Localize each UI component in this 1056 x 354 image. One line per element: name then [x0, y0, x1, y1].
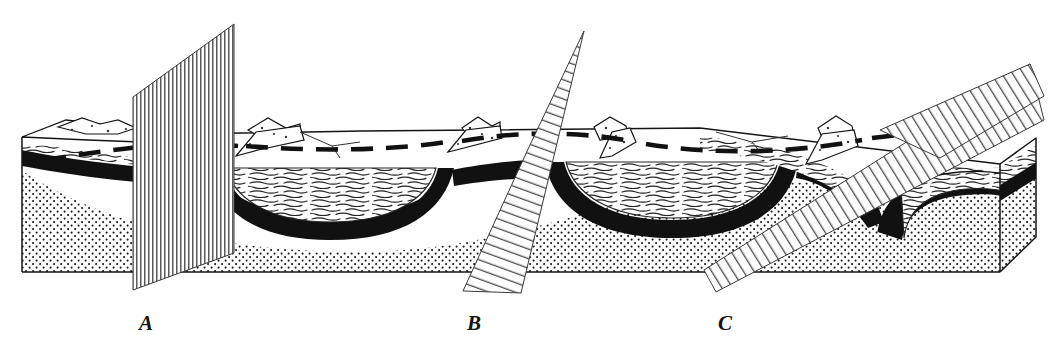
geologic-block-diagram-figure: A B C: [0, 0, 1056, 354]
plane-label-b: B: [466, 311, 481, 335]
plane-label-a: A: [137, 311, 153, 335]
block-diagram-canvas: A B C: [0, 0, 1056, 354]
plane-label-c: C: [718, 311, 733, 335]
